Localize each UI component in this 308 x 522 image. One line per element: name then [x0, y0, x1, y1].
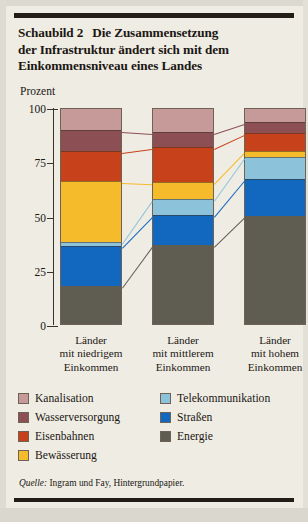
x-axis-label-line: Länder	[135, 334, 231, 347]
x-axis-label-line: mit niedrigem	[43, 347, 139, 360]
bar-segment-wasserversorgung	[245, 122, 305, 133]
legend-label: Kanalisation	[35, 392, 94, 405]
legend-label: Energie	[177, 430, 213, 443]
bar-segment-telekommunikation	[61, 242, 121, 246]
bar-segment-wasserversorgung	[153, 132, 213, 147]
x-axis-label-line: Einkommen	[227, 361, 308, 374]
x-axis-label-line: mit mittlerem	[135, 347, 231, 360]
legend-item[interactable]: Eisenbahnen	[18, 430, 94, 443]
figure-title-line-1: Die Zusammensetzung	[92, 25, 218, 40]
y-axis-tick-label: 25	[20, 266, 46, 278]
bar-segment-eisenbahnen	[153, 147, 213, 182]
y-axis-tick-label: 0	[20, 320, 46, 332]
figure-title-line-3: Einkommensniveau eines Landes	[18, 58, 290, 75]
legend-label: Straßen	[177, 411, 212, 424]
legend-item[interactable]: Kanalisation	[18, 392, 94, 405]
legend-swatch	[18, 393, 29, 404]
source-note: Quelle: Ingram und Fay, Hintergrundpapie…	[19, 478, 184, 488]
page-edge-top	[0, 0, 308, 6]
figure-label: Schaubild 2	[18, 25, 83, 40]
legend-item[interactable]: Bewässerung	[18, 449, 97, 462]
x-axis-label-line: Länder	[227, 334, 308, 347]
y-axis-unit-label: Prozent	[20, 85, 55, 97]
bar-group	[54, 104, 288, 330]
legend-label: Bewässerung	[35, 449, 97, 462]
legend-label: Eisenbahnen	[35, 430, 94, 443]
bar-segment-bew-sserung	[61, 181, 121, 242]
segment-divider	[153, 199, 213, 200]
bar-segment-wasserversorgung	[61, 130, 121, 151]
bar-segment-eisenbahnen	[245, 133, 305, 151]
figure-title: Schaubild 2Die Zusammensetzung der Infra…	[18, 25, 290, 75]
y-axis-tick-label: 50	[20, 212, 46, 224]
figure-title-line-2: der Infrastruktur ändert sich mit dem	[18, 42, 290, 59]
y-axis-tick-mark	[47, 218, 53, 219]
bar-segment-kanalisation	[245, 108, 305, 122]
legend-label: Telekommunikation	[177, 392, 270, 405]
y-axis-tick-mark	[47, 163, 53, 164]
y-axis-tick-label: 100	[20, 103, 46, 115]
bottom-rule	[14, 498, 294, 502]
bar-segment-energie	[245, 216, 305, 324]
x-axis-label-line: Länder	[43, 334, 139, 347]
legend-item[interactable]: Straßen	[160, 411, 212, 424]
page-edge-left	[0, 0, 6, 522]
bar-segment-stra-en	[245, 179, 305, 216]
y-axis-tick-label: 75	[20, 157, 46, 169]
bar-segment-energie	[61, 286, 121, 324]
segment-divider	[61, 242, 121, 243]
segment-divider	[153, 182, 213, 183]
source-text: Ingram und Fay, Hintergrundpapier.	[47, 478, 184, 488]
figure-panel: Schaubild 2Die Zusammensetzung der Infra…	[0, 0, 308, 522]
stacked-bar	[244, 108, 306, 325]
segment-divider	[153, 132, 213, 133]
bar-segment-telekommunikation	[153, 199, 213, 215]
stacked-bar	[152, 108, 214, 325]
bar-segment-eisenbahnen	[61, 151, 121, 181]
segment-divider	[245, 151, 305, 152]
chart-legend: KanalisationWasserversorgungEisenbahnenB…	[18, 392, 294, 468]
y-axis-tick-mark	[47, 272, 53, 273]
x-axis-label: Ländermit mittleremEinkommen	[135, 334, 231, 374]
bar-segment-kanalisation	[61, 108, 121, 130]
top-rule	[14, 13, 294, 18]
chart-plot-area: 0255075100	[20, 104, 288, 330]
bar-segment-stra-en	[61, 246, 121, 286]
legend-swatch	[18, 412, 29, 423]
legend-item[interactable]: Telekommunikation	[160, 392, 270, 405]
stacked-bar	[60, 108, 122, 325]
bar-segment-bew-sserung	[245, 151, 305, 157]
segment-divider	[61, 130, 121, 131]
page-edge-bottom	[0, 508, 308, 522]
legend-item[interactable]: Energie	[160, 430, 213, 443]
bar-segment-bew-sserung	[153, 182, 213, 199]
bar-segment-stra-en	[153, 215, 213, 245]
segment-divider	[61, 181, 121, 182]
x-axis-label: Ländermit hohemEinkommen	[227, 334, 308, 374]
legend-item[interactable]: Wasserversorgung	[18, 411, 120, 424]
segment-divider	[245, 157, 305, 158]
source-prefix: Quelle:	[19, 478, 47, 488]
segment-divider	[153, 215, 213, 216]
segment-divider	[245, 122, 305, 123]
x-axis-label-line: Einkommen	[43, 361, 139, 374]
legend-label: Wasserversorgung	[35, 411, 120, 424]
legend-swatch	[18, 431, 29, 442]
bar-segment-energie	[153, 245, 213, 324]
bar-segment-kanalisation	[153, 108, 213, 132]
legend-swatch	[160, 412, 171, 423]
x-axis-label-line: mit hohem	[227, 347, 308, 360]
segment-divider	[61, 151, 121, 152]
x-axis-label-line: Einkommen	[135, 361, 231, 374]
legend-swatch	[18, 450, 29, 461]
x-axis-label: Ländermit niedrigemEinkommen	[43, 334, 139, 374]
bar-segment-telekommunikation	[245, 157, 305, 179]
segment-divider	[61, 246, 121, 247]
segment-divider	[153, 147, 213, 148]
legend-swatch	[160, 431, 171, 442]
legend-swatch	[160, 393, 171, 404]
segment-divider	[245, 179, 305, 180]
segment-divider	[245, 133, 305, 134]
